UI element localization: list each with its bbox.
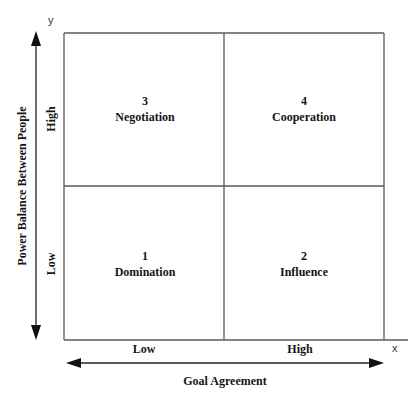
quadrant-label: Influence	[254, 264, 354, 280]
y-axis-double-arrow	[31, 31, 41, 340]
x-axis-high-label: High	[270, 342, 330, 356]
y-axis-title: Power Balance Between People	[15, 76, 29, 296]
matrix-grid	[64, 33, 408, 340]
x-axis-double-arrow	[66, 358, 384, 368]
quadrant-cooperation: 4 Cooperation	[254, 93, 354, 125]
y-axis-high-label: High	[44, 99, 58, 139]
quadrant-number: 4	[254, 93, 354, 109]
quadrant-influence: 2 Influence	[254, 248, 354, 280]
matrix-diagram: y x Power Balance Between People High Lo…	[0, 0, 420, 398]
x-axis-letter: x	[392, 342, 398, 354]
x-axis-low-label: Low	[114, 342, 174, 356]
y-axis-low-label: Low	[44, 244, 58, 284]
quadrant-number: 1	[95, 248, 195, 264]
quadrant-label: Negotiation	[95, 109, 195, 125]
quadrant-number: 2	[254, 248, 354, 264]
quadrant-label: Domination	[95, 264, 195, 280]
quadrant-domination: 1 Domination	[95, 248, 195, 280]
quadrant-label: Cooperation	[254, 109, 354, 125]
y-axis-letter: y	[48, 14, 54, 26]
grid-and-arrows	[0, 0, 420, 398]
x-axis-title: Goal Agreement	[150, 374, 300, 388]
quadrant-negotiation: 3 Negotiation	[95, 93, 195, 125]
quadrant-number: 3	[95, 93, 195, 109]
